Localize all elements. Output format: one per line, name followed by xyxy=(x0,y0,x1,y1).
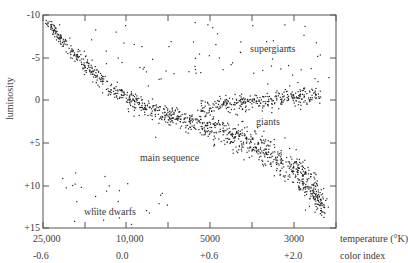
y-tick-label: +10 xyxy=(24,181,40,191)
x-tick-label-color-index: +0.6 xyxy=(200,251,218,261)
y-axis-label: luminosity xyxy=(4,77,15,120)
y-tick-label: 0 xyxy=(35,95,40,105)
y-tick-label: -10 xyxy=(27,10,40,20)
x-tick-label-color-index: -0.6 xyxy=(33,251,49,261)
x-tick-label-color-index: +2.0 xyxy=(284,251,302,261)
x-tick-label-temperature: 3000 xyxy=(284,234,304,244)
x-tick-label-temperature: 25,000 xyxy=(33,234,61,244)
x-axis-temp-title: temperature (°K) xyxy=(340,234,408,244)
label-supergiants: supergiants xyxy=(250,44,295,54)
x-axis-color-title: color index xyxy=(340,251,385,261)
x-tick-label-temperature: 10,000 xyxy=(116,234,144,244)
label-main-sequence: main sequence xyxy=(140,153,199,163)
x-tick-label-color-index: 0.0 xyxy=(116,251,129,261)
y-tick-label: +15 xyxy=(24,223,40,233)
y-tick-label: -5 xyxy=(32,53,40,63)
y-tick-label: +5 xyxy=(29,138,40,148)
label-white-dwarfs: white dwarfs xyxy=(84,207,136,217)
label-giants: giants xyxy=(256,117,280,127)
x-tick-label-temperature: 5000 xyxy=(200,234,220,244)
